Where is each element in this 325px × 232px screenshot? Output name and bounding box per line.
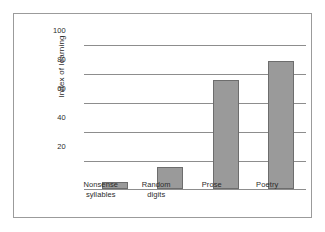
category-label-line: Poetry: [256, 180, 278, 189]
y-tick-label: 80: [48, 55, 66, 64]
chart-page: Index of learning 20406080100 Nonsensesy…: [0, 0, 325, 232]
category-label: Poetry: [232, 180, 302, 190]
y-tick-label: 60: [48, 84, 66, 93]
y-tick-label: 20: [48, 142, 66, 151]
category-label-line: digits: [121, 190, 191, 200]
category-label-line: Prose: [202, 180, 222, 189]
y-tick-label: 40: [48, 113, 66, 122]
category-label-line: Random: [142, 180, 171, 189]
category-label-line: Nonsense: [83, 180, 118, 189]
y-tick-label: 100: [48, 26, 66, 35]
